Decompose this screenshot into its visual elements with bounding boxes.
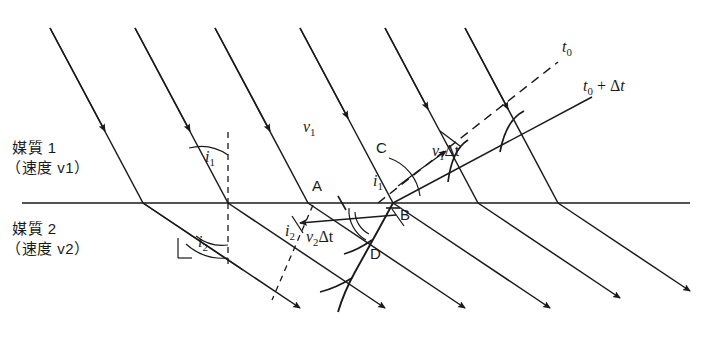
medium-1-name: 媒質 1 bbox=[12, 138, 57, 158]
point-b-label: B bbox=[400, 206, 410, 223]
wavefront-t0 bbox=[378, 62, 558, 203]
incident-rays bbox=[50, 28, 558, 203]
normal-lines bbox=[228, 132, 313, 300]
segment-v2dt-label: v2Δt bbox=[306, 228, 333, 248]
segment-v1dt-label: v1Δt bbox=[432, 142, 459, 162]
v1-region-label: v1 bbox=[303, 118, 316, 138]
angle-i2-left-label: i2 bbox=[198, 233, 208, 253]
point-d-label: D bbox=[370, 245, 381, 262]
medium-1-speed: （速度 v1） bbox=[6, 158, 90, 178]
refraction-diagram: 媒質 1 （速度 v1） 媒質 2 （速度 v2） v1 t0 t0 + Δt … bbox=[0, 0, 707, 361]
medium-2-name: 媒質 2 bbox=[12, 219, 57, 239]
refracted-rays bbox=[143, 203, 690, 308]
point-c-label: C bbox=[376, 139, 387, 156]
angle-i1-left-label: i1 bbox=[205, 148, 215, 168]
diagram-canvas bbox=[0, 0, 707, 361]
wavefront-t0-plus-dt bbox=[393, 97, 592, 203]
wavefront-t0-label: t0 bbox=[562, 38, 572, 58]
medium-2-speed: （速度 v2） bbox=[6, 239, 90, 259]
wavefront-t0-dt-label: t0 + Δt bbox=[583, 77, 625, 97]
angle-i2-right-label: i2 bbox=[285, 222, 295, 242]
arc-i2-right bbox=[355, 212, 369, 234]
point-a-label: A bbox=[312, 177, 322, 194]
angle-i1-right-label: i1 bbox=[373, 172, 383, 192]
huygens-wavelets-upper bbox=[448, 111, 524, 182]
